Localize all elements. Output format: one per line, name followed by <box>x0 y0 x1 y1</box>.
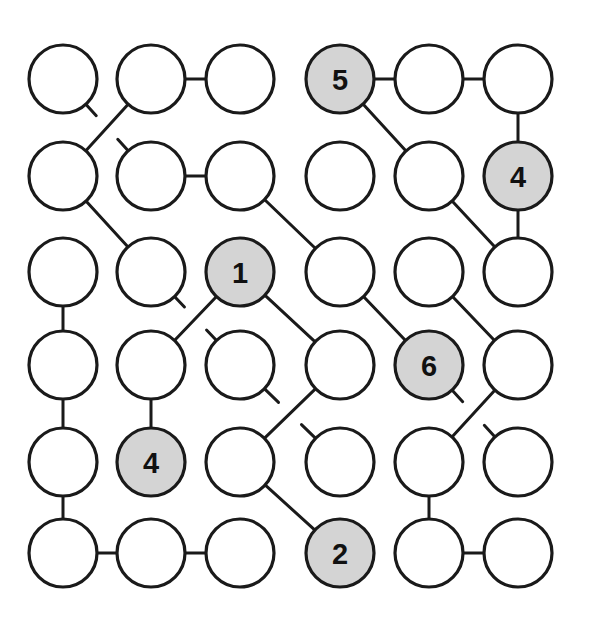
graph-node-r1c2[interactable] <box>117 45 185 113</box>
diagram-canvas: 541642 <box>0 0 591 624</box>
edge-r2c1-r3c2 <box>87 202 128 246</box>
node-circle[interactable] <box>117 142 185 210</box>
graph-node-r6c3[interactable] <box>206 519 274 587</box>
node-circle[interactable] <box>29 238 97 306</box>
graph-node-r1c6[interactable] <box>484 45 552 113</box>
node-circle[interactable] <box>395 45 463 113</box>
node-circle[interactable] <box>29 142 97 210</box>
node-circle[interactable] <box>484 519 552 587</box>
graph-node-r6c2[interactable] <box>117 519 185 587</box>
graph-node-r2c2[interactable] <box>117 142 185 210</box>
node-circle[interactable] <box>206 142 274 210</box>
graph-node-r3c5[interactable] <box>395 238 463 306</box>
node-circle[interactable] <box>484 45 552 113</box>
edge-r3c4-r4c5 <box>364 297 405 339</box>
graph-node-r5c1[interactable] <box>29 428 97 496</box>
node-circle[interactable] <box>306 331 374 399</box>
node-circle[interactable] <box>117 519 185 587</box>
graph-node-r2c5[interactable] <box>395 142 463 210</box>
node-circle[interactable] <box>306 238 374 306</box>
edge-r2c3-r3c4 <box>265 200 315 248</box>
node-circle[interactable] <box>29 519 97 587</box>
edge-r1c1-r2c2-segment-a <box>87 105 97 116</box>
edge-r2c5-r3c6 <box>453 202 494 247</box>
node-circle[interactable] <box>306 428 374 496</box>
edge-r4c3-r5c4-segment-b <box>301 425 314 438</box>
graph-node-r2c4[interactable] <box>306 142 374 210</box>
graph-node-r4c6[interactable] <box>484 331 552 399</box>
node-circle[interactable] <box>117 331 185 399</box>
edge-r3c5-r4c6 <box>453 297 494 339</box>
graph-node-r6c5[interactable] <box>395 519 463 587</box>
graph-node-labeled-r3c3[interactable]: 1 <box>206 238 274 306</box>
node-circle[interactable] <box>395 142 463 210</box>
graph-node-r3c4[interactable] <box>306 238 374 306</box>
graph-node-r3c1[interactable] <box>29 238 97 306</box>
graph-node-r6c1[interactable] <box>29 519 97 587</box>
node-circle[interactable] <box>117 238 185 306</box>
graph-node-r5c5[interactable] <box>395 428 463 496</box>
node-circle[interactable] <box>484 238 552 306</box>
graph-node-labeled-r1c4[interactable]: 5 <box>306 45 374 113</box>
node-label: 4 <box>510 161 526 193</box>
edge-r3c2-r4c3-segment-a <box>175 297 184 307</box>
node-label: 6 <box>421 350 437 382</box>
node-label: 2 <box>332 538 348 570</box>
graph-node-r6c6[interactable] <box>484 519 552 587</box>
edge-r3c2-r4c3-segment-b <box>207 330 216 340</box>
node-circle[interactable] <box>206 519 274 587</box>
node-circle[interactable] <box>206 428 274 496</box>
graph-node-r3c2[interactable] <box>117 238 185 306</box>
graph-node-r1c3[interactable] <box>206 45 274 113</box>
node-label: 5 <box>332 64 348 96</box>
edge-r4c5-r5c6-segment-a <box>453 391 463 402</box>
graph-node-r5c6[interactable] <box>484 428 552 496</box>
node-circle[interactable] <box>306 142 374 210</box>
graph-node-r5c3[interactable] <box>206 428 274 496</box>
node-circle[interactable] <box>29 331 97 399</box>
node-label: 1 <box>232 257 248 289</box>
edge-r4c5-r5c6-segment-b <box>484 425 494 436</box>
graph-node-labeled-r4c5[interactable]: 6 <box>395 331 463 399</box>
node-circle[interactable] <box>395 519 463 587</box>
graph-node-r1c5[interactable] <box>395 45 463 113</box>
edge-r1c4-r2c5 <box>364 105 406 150</box>
node-circle[interactable] <box>395 428 463 496</box>
graph-node-r1c1[interactable] <box>29 45 97 113</box>
graph-node-labeled-r6c4[interactable]: 2 <box>306 519 374 587</box>
graph-node-r2c1[interactable] <box>29 142 97 210</box>
graph-node-r5c4[interactable] <box>306 428 374 496</box>
graph-node-r3c6[interactable] <box>484 238 552 306</box>
node-circle[interactable] <box>484 428 552 496</box>
node-circle[interactable] <box>117 45 185 113</box>
graph-node-r4c1[interactable] <box>29 331 97 399</box>
graph-node-r4c4[interactable] <box>306 331 374 399</box>
node-circle[interactable] <box>484 331 552 399</box>
node-circle[interactable] <box>29 45 97 113</box>
node-circle[interactable] <box>206 331 274 399</box>
edge-r4c3-r5c4-segment-a <box>265 389 278 402</box>
node-label: 4 <box>143 447 159 479</box>
node-link-graph: 541642 <box>0 0 591 624</box>
graph-node-r2c3[interactable] <box>206 142 274 210</box>
graph-node-r4c3[interactable] <box>206 331 274 399</box>
graph-node-labeled-r2c6[interactable]: 4 <box>484 142 552 210</box>
node-circle[interactable] <box>29 428 97 496</box>
graph-node-labeled-r5c2[interactable]: 4 <box>117 428 185 496</box>
node-circle[interactable] <box>395 238 463 306</box>
graph-node-r4c2[interactable] <box>117 331 185 399</box>
edge-r3c3-r4c4 <box>266 296 315 341</box>
edge-r1c1-r2c2-segment-b <box>118 139 128 150</box>
edge-r5c3-r6c4 <box>266 486 314 530</box>
node-circle[interactable] <box>206 45 274 113</box>
